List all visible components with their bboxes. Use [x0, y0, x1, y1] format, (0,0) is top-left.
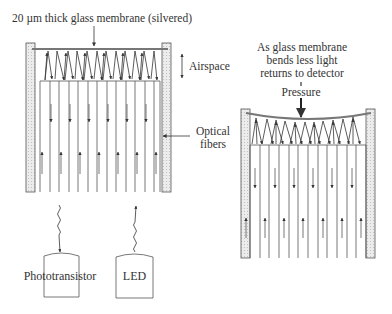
led-label: LED	[116, 270, 153, 283]
membrane-label: 20 µm thick glass membrane (silvered)	[12, 12, 192, 25]
optical-fibers	[250, 145, 366, 258]
pressure-label: Pressure	[270, 86, 332, 99]
left-wall	[26, 43, 35, 192]
optical-fibers-label: Optical fibers	[193, 125, 233, 151]
right-sensor-under-pressure	[241, 82, 375, 258]
right-wall	[162, 43, 171, 192]
left-wall	[241, 109, 250, 258]
outgoing-light-wave-icon	[134, 206, 137, 252]
left-sensor	[26, 26, 190, 192]
phototransistor	[44, 205, 79, 297]
airspace-label: Airspace	[189, 60, 230, 73]
right-caption: As glass membrane bends less light retur…	[250, 41, 354, 80]
led	[116, 206, 153, 298]
phototransistor-label: Phototransistor	[16, 270, 104, 283]
right-wall	[366, 109, 375, 258]
optical-fibers	[40, 81, 160, 192]
bent-glass-membrane	[246, 113, 371, 119]
incoming-light-wave-icon	[58, 205, 61, 252]
